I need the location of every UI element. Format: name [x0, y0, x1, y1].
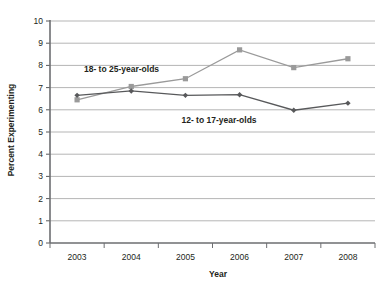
line-chart: 012345678910 200320042005200620072008 18… — [0, 0, 391, 285]
y-tick-label: 8 — [38, 60, 43, 70]
data-point — [345, 56, 350, 61]
y-tick-label: 0 — [38, 238, 43, 248]
series-annotation-0: 18- to 25-year-olds — [84, 64, 159, 74]
data-point — [183, 76, 188, 81]
data-point — [237, 47, 242, 52]
data-point — [291, 108, 296, 113]
series-line-1 — [77, 91, 348, 110]
y-axis-ticks: 012345678910 — [34, 16, 44, 248]
x-tick-label: 2008 — [338, 252, 357, 262]
x-tick-label: 2003 — [68, 252, 87, 262]
y-axis-title: Percent Experimenting — [6, 84, 16, 177]
series-annotation-1: 12- to 17-year-olds — [181, 115, 256, 125]
y-tick-label: 4 — [38, 149, 43, 159]
x-tick-label: 2005 — [176, 252, 195, 262]
x-tick-label: 2007 — [284, 252, 303, 262]
y-tick-label: 10 — [34, 16, 44, 26]
y-tick-label: 7 — [38, 83, 43, 93]
data-point — [237, 92, 242, 97]
y-tick-label: 3 — [38, 171, 43, 181]
x-axis-title: Year — [209, 269, 228, 279]
y-tick-label: 2 — [38, 194, 43, 204]
data-point — [291, 65, 296, 70]
y-tick-label: 9 — [38, 38, 43, 48]
y-tick-label: 1 — [38, 216, 43, 226]
x-tick-label: 2006 — [230, 252, 249, 262]
data-series-layer — [74, 47, 350, 113]
y-tick-label: 5 — [38, 127, 43, 137]
axes — [46, 20, 375, 248]
x-tick-label: 2004 — [122, 252, 141, 262]
chart-container: 012345678910 200320042005200620072008 18… — [0, 0, 391, 285]
data-point — [345, 100, 350, 105]
y-tick-label: 6 — [38, 105, 43, 115]
x-axis-ticks: 200320042005200620072008 — [68, 252, 358, 262]
data-point — [183, 93, 188, 98]
